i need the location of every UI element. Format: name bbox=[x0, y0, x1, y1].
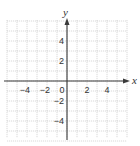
x-axis-label: x bbox=[131, 74, 137, 86]
y-tick-label: 2 bbox=[59, 56, 64, 66]
x-tick-labels: −4−2024 bbox=[20, 85, 110, 95]
y-tick-label: −2 bbox=[54, 96, 64, 106]
x-tick-label: −2 bbox=[40, 85, 50, 95]
x-tick-label: −4 bbox=[20, 85, 30, 95]
y-tick-label: −4 bbox=[54, 116, 64, 126]
coordinate-plane: x y −4−2024 42−2−4 bbox=[0, 0, 140, 146]
y-tick-label: 4 bbox=[59, 36, 64, 46]
y-axis-label: y bbox=[62, 6, 68, 18]
y-axis-arrow-icon bbox=[65, 18, 70, 25]
axes bbox=[4, 18, 130, 140]
x-axis-arrow-icon bbox=[123, 79, 130, 84]
x-tick-label: 0 bbox=[59, 85, 64, 95]
x-tick-label: 4 bbox=[104, 85, 109, 95]
x-tick-label: 2 bbox=[84, 85, 89, 95]
